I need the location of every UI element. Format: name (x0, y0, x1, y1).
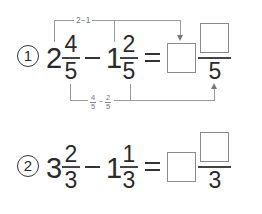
equals-bottom (145, 169, 160, 171)
denominator-1: 5 (62, 60, 80, 83)
answer-whole-box[interactable] (167, 43, 196, 73)
equals-top (145, 162, 160, 164)
numerator-2: 2 (120, 33, 138, 56)
numerator-2: 1 (120, 143, 138, 166)
answer-whole-box[interactable] (167, 152, 196, 182)
arrow-up-icon (211, 83, 217, 89)
equals-bottom (145, 60, 160, 62)
denominator-2: 5 (120, 60, 138, 83)
minus-sign (85, 166, 100, 168)
hint-frac2-den: 5 (104, 103, 112, 111)
hint-bottom-right-vertical (214, 89, 215, 101)
numerator-1: 4 (62, 33, 80, 56)
equals-top (145, 53, 160, 55)
whole-number-1: 3 (46, 154, 62, 183)
answer-denominator: 5 (206, 60, 224, 83)
problem-number-2: 2 (17, 155, 39, 177)
arrow-down-icon (177, 35, 183, 41)
answer-numerator-box[interactable] (200, 132, 229, 162)
denominator-2: 3 (120, 169, 138, 192)
hint-frac2-num: 2 (104, 94, 112, 102)
answer-denominator: 3 (206, 169, 224, 192)
minus-sign (85, 57, 100, 59)
hint-frac1-num: 4 (89, 94, 97, 102)
answer-numerator-box[interactable] (200, 23, 229, 53)
hint-top-right-vertical (180, 20, 181, 36)
hint-bottom-label: 4 5 − 2 5 (88, 94, 114, 110)
hint-bottom-mid-vertical (130, 84, 131, 101)
problem-number-1: 1 (17, 45, 39, 67)
hint-top-label: 2−1 (74, 15, 92, 25)
hint-bottom-left-vertical (70, 84, 71, 101)
denominator-1: 3 (62, 169, 80, 192)
hint-top-left-vertical (54, 20, 55, 42)
whole-number-1: 2 (46, 44, 62, 73)
hint-frac1-den: 5 (89, 103, 97, 111)
hint-top-mid-vertical (114, 20, 115, 42)
numerator-1: 2 (62, 143, 80, 166)
